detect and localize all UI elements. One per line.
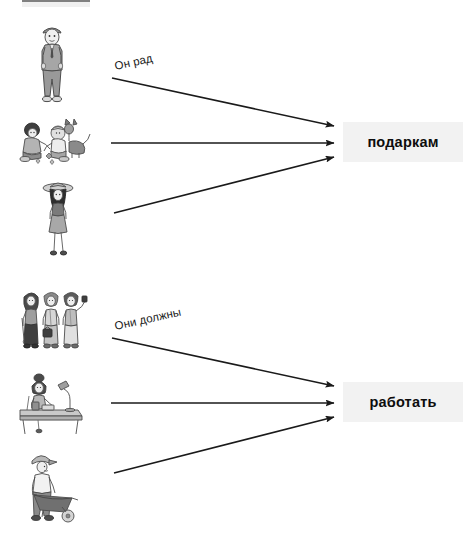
connector-caption-group-2: Они должны <box>113 306 182 332</box>
illustration-woman-at-desk-with-lamp <box>14 372 90 436</box>
worksheet-page: Он рад подаркам <box>0 0 472 540</box>
connector-caption-group-1: Он рад <box>113 52 153 72</box>
arrow-g1-bottom <box>114 157 334 213</box>
top-gray-band <box>22 0 90 7</box>
illustration-group-of-three-people <box>14 285 90 357</box>
target-word-rabotat: работать <box>343 382 463 422</box>
illustration-person-with-wheelbarrow <box>16 448 86 528</box>
arrow-g2-top <box>112 338 334 386</box>
illustration-children-with-dog <box>12 116 92 168</box>
target-word-podarkam: подаркам <box>343 122 463 162</box>
arrow-g1-top <box>112 78 334 126</box>
arrow-g2-bottom <box>114 417 334 473</box>
illustration-man-in-suit-standing <box>28 20 76 108</box>
illustration-woman-in-hat-walking <box>34 178 82 260</box>
